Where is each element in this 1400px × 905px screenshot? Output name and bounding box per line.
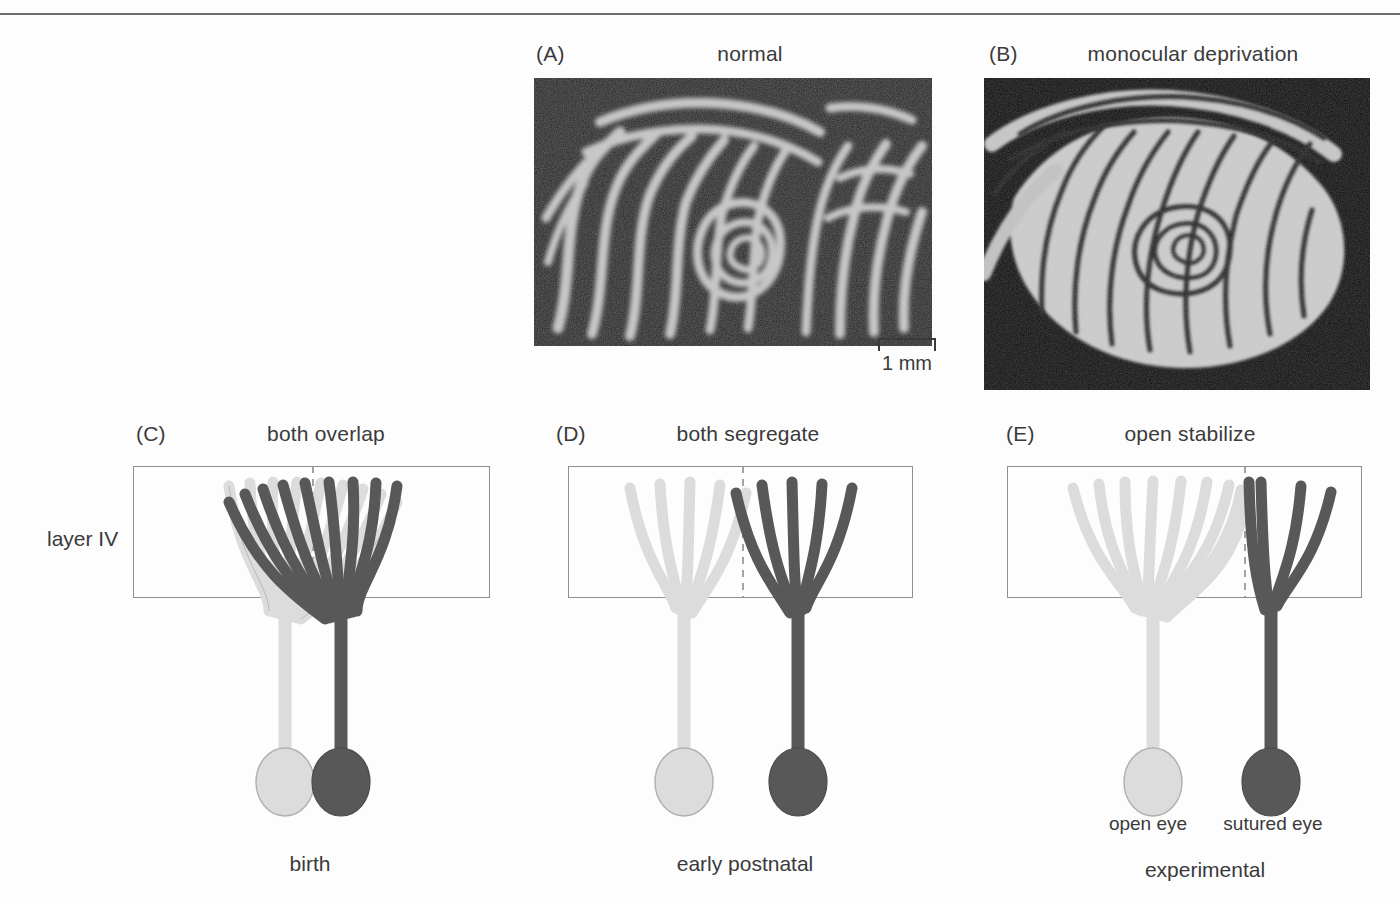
sutured-eye-label: sutured eye: [1203, 813, 1343, 835]
panel-c-dark-soma: [312, 748, 370, 816]
panel-d-light-soma: [655, 748, 713, 816]
panel-c-diagram: [133, 466, 493, 826]
stage-label-birth: birth: [245, 852, 375, 876]
panel-c-light-soma: [256, 748, 314, 816]
figure-root: (A) normal: [0, 0, 1400, 905]
panel-e-diagram: [1007, 466, 1367, 826]
panel-b-letter: (B): [989, 42, 1018, 66]
top-rule-divider: [0, 13, 1400, 15]
panel-c-letter: (C): [136, 422, 166, 446]
panel-e-letter: (E): [1006, 422, 1035, 446]
panel-a-letter: (A): [536, 42, 565, 66]
open-eye-label: open eye: [1083, 813, 1213, 835]
layer-iv-label: layer IV: [47, 527, 118, 551]
scale-bar-label: 1 mm: [878, 352, 936, 375]
scale-bar-line: [878, 338, 936, 351]
scale-bar: 1 mm: [878, 338, 936, 375]
panel-c-title: both overlap: [176, 422, 476, 446]
panel-a-micrograph: [534, 78, 932, 346]
panel-b-title: monocular deprivation: [1028, 42, 1358, 66]
panel-e-light-soma: [1124, 748, 1182, 816]
panel-d-dark-soma: [769, 748, 827, 816]
panel-b-micrograph: [984, 78, 1370, 390]
panel-e-dark-soma: [1242, 748, 1300, 816]
stage-label-experimental: experimental: [1110, 858, 1300, 882]
panel-d-title: both segregate: [598, 422, 898, 446]
panel-d-letter: (D): [556, 422, 586, 446]
stage-label-early-postnatal: early postnatal: [640, 852, 850, 876]
panel-d-diagram: [568, 466, 918, 826]
panel-a-title: normal: [600, 42, 900, 66]
panel-e-title: open stabilize: [1050, 422, 1330, 446]
